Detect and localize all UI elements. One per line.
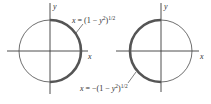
equation-leader-line bbox=[128, 72, 136, 83]
equation-leader-line bbox=[76, 24, 83, 33]
equation-left-half: x = −(1 − y2)1/2 bbox=[79, 83, 128, 93]
equation-right-half: x = (1 − y2)1/2 bbox=[71, 15, 116, 25]
figure: x y x = (1 − y2)1/2 x y x = −(1 − y2)1/2 bbox=[0, 0, 211, 104]
panel-right-half: x y x = (1 − y2)1/2 bbox=[7, 2, 116, 94]
x-axis-label: x bbox=[199, 52, 204, 61]
x-axis-label: x bbox=[87, 52, 92, 61]
y-axis-label: y bbox=[163, 2, 168, 11]
y-axis-label: y bbox=[52, 2, 57, 11]
